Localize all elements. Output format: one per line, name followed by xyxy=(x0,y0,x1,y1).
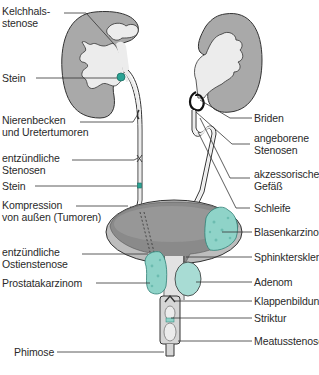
label-line: Ostienstenose xyxy=(2,258,68,270)
urinary-obstruction-diagram: Kelchhals- stenose Stein Nierenbecken un… xyxy=(0,0,319,375)
label-blasenkarzinom: Blasenkarzinom xyxy=(254,226,319,238)
label-ostienstenose: entzündliche Ostienstenose xyxy=(2,246,68,270)
label-line: akzessorisches xyxy=(254,168,319,180)
label-kompression: Kompression von außen (Tumoren) xyxy=(2,199,101,223)
label-line: Blasenkarzinom xyxy=(254,226,319,238)
label-line: Kelchhals- xyxy=(2,5,50,17)
label-line: und Uretertumoren xyxy=(2,126,88,138)
label-phimose: Phimose xyxy=(14,346,54,358)
label-briden: Briden xyxy=(254,112,284,124)
right-kidney xyxy=(190,13,262,112)
label-line: Schleife xyxy=(254,202,291,214)
bladder xyxy=(106,200,242,300)
label-stein-niere: Stein xyxy=(2,72,25,84)
label-line: Klappenbildung xyxy=(254,295,319,307)
label-line: Adenom xyxy=(254,276,293,288)
label-line: von außen (Tumoren) xyxy=(2,211,101,223)
label-line: Gefäß xyxy=(254,180,319,192)
label-line: Prostatakarzinom xyxy=(2,277,82,289)
label-entzuendliche-stenosen: entzündliche Stenosen xyxy=(2,152,60,176)
label-stein-ureter: Stein xyxy=(2,180,25,192)
label-line: Kompression xyxy=(2,199,101,211)
left-ureter xyxy=(124,70,146,212)
label-line: Briden xyxy=(254,112,284,124)
label-sphinktersklerose: Sphinktersklerose xyxy=(254,251,319,263)
label-line: Stenosen xyxy=(254,144,309,156)
label-line: entzündliche xyxy=(2,152,60,164)
label-line: Sphinktersklerose xyxy=(254,251,319,263)
label-line: Phimose xyxy=(14,346,54,358)
label-schleife: Schleife xyxy=(254,202,291,214)
label-nierenbecken-uretertumoren: Nierenbecken und Uretertumoren xyxy=(2,114,88,138)
label-meatusstenose: Meatusstenose xyxy=(254,335,319,347)
label-klappenbildung: Klappenbildung xyxy=(254,295,319,307)
left-kidney xyxy=(62,12,139,118)
label-adenom: Adenom xyxy=(254,276,293,288)
label-line: Nierenbecken xyxy=(2,114,88,126)
label-line: entzündliche xyxy=(2,246,68,258)
urethra xyxy=(160,296,180,356)
label-kelchhalsstenose: Kelchhals- stenose xyxy=(2,5,50,29)
label-line: angeborene xyxy=(254,132,309,144)
label-line: Meatusstenose xyxy=(254,335,319,347)
label-striktur: Striktur xyxy=(254,312,286,324)
label-line: Striktur xyxy=(254,312,286,324)
label-prostatakarzinom: Prostatakarzinom xyxy=(2,277,82,289)
label-angeborene-stenosen: angeborene Stenosen xyxy=(254,132,309,156)
label-line: Stein xyxy=(2,72,25,84)
label-line: stenose xyxy=(2,17,50,29)
label-line: Stenosen xyxy=(2,164,60,176)
label-akzessorisches-gefaess: akzessorisches Gefäß xyxy=(254,168,319,192)
label-line: Stein xyxy=(2,180,25,192)
